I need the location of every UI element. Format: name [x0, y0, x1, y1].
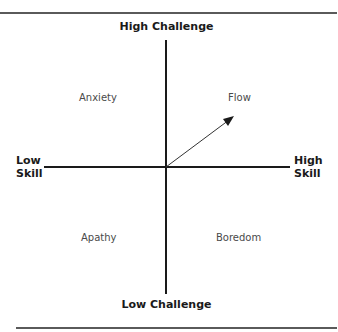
quadrant-axes — [0, 0, 338, 332]
arrow-icon — [166, 116, 234, 167]
